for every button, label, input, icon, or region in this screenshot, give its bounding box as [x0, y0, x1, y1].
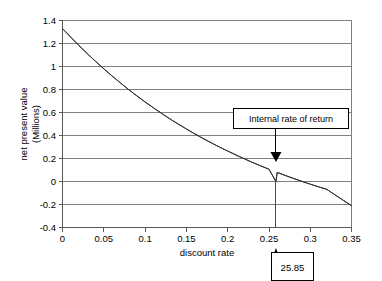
y-axis-title-line2: (Millions) — [30, 105, 41, 143]
x-tick-label-7: 0.35 — [342, 233, 361, 244]
chart-canvas: 1.4 1.2 1 0.8 0.6 0.4 0.2 0 -0.2 -0.4 0 … — [0, 0, 382, 281]
y-axis-title-line1: net present value — [18, 88, 29, 161]
x-tick-label-5: 0.25 — [260, 233, 279, 244]
down-arrow-icon — [270, 152, 281, 162]
irr-value-callout[interactable]: 25.85 — [271, 248, 314, 281]
y-tick-label-6: 0.2 — [43, 153, 56, 164]
y-tick-label-5: 0.4 — [43, 130, 56, 141]
irr-annotation-label: Internal rate of return — [249, 114, 333, 124]
x-tick-label-1: 0.05 — [95, 233, 114, 244]
y-tick-label-9: -0.4 — [40, 222, 56, 233]
x-tick-label-0: 0 — [60, 233, 65, 244]
y-tick-label-7: 0 — [51, 176, 56, 187]
y-tick-label-2: 1 — [51, 61, 56, 72]
x-tick-label-2: 0.1 — [138, 233, 151, 244]
y-tick-label-8: -0.2 — [40, 199, 56, 210]
x-tick-label-3: 0.15 — [177, 233, 196, 244]
x-tickmarks — [63, 228, 352, 232]
x-tick-label-6: 0.3 — [304, 233, 317, 244]
x-tick-labels: 0 0.05 0.1 0.15 0.2 0.25 0.3 0.35 — [60, 233, 361, 244]
irr-value-label: 25.85 — [281, 262, 305, 273]
y-tickmarks — [59, 21, 63, 228]
y-tick-label-3: 0.8 — [43, 84, 56, 95]
x-axis-title: discount rate — [180, 247, 234, 258]
y-tick-label-0: 1.4 — [43, 15, 56, 26]
y-tick-labels: 1.4 1.2 1 0.8 0.6 0.4 0.2 0 -0.2 -0.4 — [40, 15, 56, 233]
y-tick-label-4: 0.6 — [43, 107, 56, 118]
y-axis-title-group: net present value (Millions) — [18, 88, 41, 161]
x-tick-label-4: 0.2 — [221, 233, 234, 244]
npv-vs-discount-rate-chart: 1.4 1.2 1 0.8 0.6 0.4 0.2 0 -0.2 -0.4 0 … — [0, 0, 382, 281]
y-tick-label-1: 1.2 — [43, 38, 56, 49]
